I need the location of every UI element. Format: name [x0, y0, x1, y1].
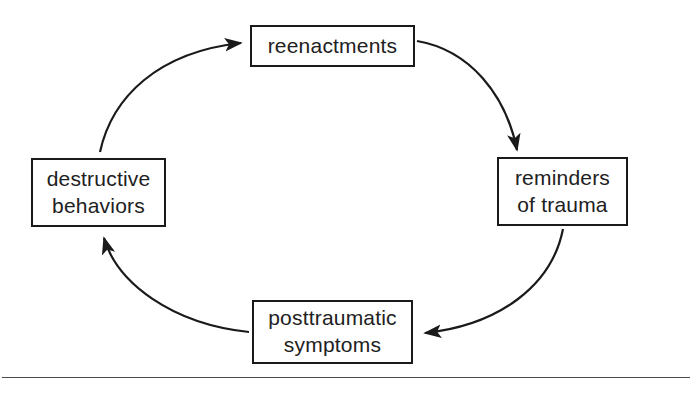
node-reminders-of-trauma-label: reminders of trauma: [509, 165, 616, 219]
edge-destructive-to-reenactments: [100, 43, 241, 152]
edge-posttraumatic-to-destructive: [104, 238, 249, 332]
node-reminders-of-trauma: reminders of trauma: [497, 157, 628, 226]
edge-reminders-to-posttraumatic: [425, 229, 563, 333]
node-reenactments: reenactments: [250, 25, 415, 67]
node-destructive-behaviors: destructive behaviors: [31, 158, 166, 227]
node-destructive-behaviors-label: destructive behaviors: [41, 166, 157, 220]
cycle-diagram-figure: reenactments reminders of trauma posttra…: [0, 0, 699, 393]
node-posttraumatic-symptoms-label: posttraumatic symptoms: [262, 305, 403, 359]
node-posttraumatic-symptoms: posttraumatic symptoms: [252, 300, 413, 364]
edge-reenactments-to-reminders: [417, 41, 517, 150]
page-divider-rule: [2, 377, 690, 378]
node-reenactments-label: reenactments: [262, 33, 404, 60]
